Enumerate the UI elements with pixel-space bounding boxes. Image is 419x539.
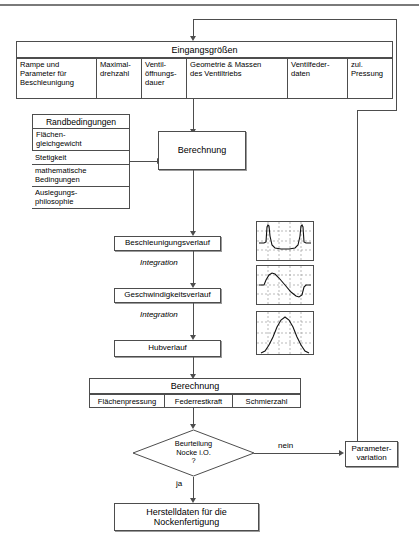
lift-to-calcbottom-line: [193, 357, 194, 375]
thumbnail-geschwindigkeitsverlauf: [256, 265, 314, 305]
thumbnail-beschleunigungsverlauf: [256, 221, 314, 261]
feedback-line-right-upper: [396, 19, 397, 111]
decision-no-line: [254, 453, 340, 454]
calc-bottom-header-label: Berechnung: [171, 381, 220, 391]
constraint-item-flaechengleichgewicht[interactable]: Flächen- gleichgewicht: [32, 129, 130, 151]
decision-no-label: nein: [278, 441, 293, 450]
decision-no-arrowhead: [339, 450, 344, 456]
inputs-columns: Rampe und Parameter für Beschleunigung M…: [16, 58, 393, 99]
decision-yes-line: [193, 477, 194, 499]
inputs-to-calc-line: [193, 99, 194, 130]
chain-box-beschleunigungsverlauf[interactable]: Beschleunigungsverlauf: [114, 236, 221, 251]
constraints-header: Randbedingungen: [32, 114, 130, 129]
feedback-line-top: [193, 19, 397, 20]
top-rule: [0, 4, 419, 6]
inputs-header-label: Eingangsgrößen: [171, 45, 237, 55]
chain-label-hubverlauf: Hubverlauf: [148, 344, 187, 353]
input-column-ventilfederdaten[interactable]: Ventilfeder- daten: [288, 58, 348, 99]
parameter-variation-box[interactable]: Parameter- variation: [345, 441, 398, 467]
chain-box-geschwindigkeitsverlauf[interactable]: Geschwindigkeitsverlauf: [114, 288, 221, 303]
feedback-line-into-inputs: [193, 19, 194, 37]
constraints-to-calc-line: [130, 161, 158, 162]
integration-label-2: Integration: [140, 310, 178, 319]
feedback-line-mid: [357, 110, 397, 111]
input-column-maximaldrehzahl[interactable]: Maximal- drehzahl: [97, 58, 142, 99]
feedback-line-right-lower: [357, 110, 358, 442]
calc-cell-federrestkraft[interactable]: Federrestkraft: [165, 394, 233, 408]
flowchart-diagram: Eingangsgrößen Rampe und Parameter für B…: [0, 0, 419, 539]
calc-cell-schmierzahl[interactable]: Schmierzahl: [233, 394, 301, 408]
chain-box-hubverlauf[interactable]: Hubverlauf: [114, 340, 221, 357]
input-column-ventiloeffnungsdauer[interactable]: Ventil- öffnungs- dauer: [142, 58, 187, 99]
constraint-item-mathematische-bedingungen[interactable]: mathematische Bedingungen: [32, 165, 130, 187]
calc-top-box[interactable]: Berechnung: [158, 131, 246, 170]
constraint-item-stetigkeit[interactable]: Stetigkeit: [32, 151, 130, 165]
calcbottom-to-decision-line: [193, 408, 194, 425]
chain-label-beschleunigungsverlauf: Beschleunigungsverlauf: [125, 239, 210, 248]
constraint-item-auslegungsphilosophie[interactable]: Auslegungs- philosophie: [32, 187, 130, 209]
calc-cell-flaechenpressung[interactable]: Flächenpressung: [89, 394, 165, 408]
calc-top-label: Berechnung: [178, 145, 227, 155]
calc-to-accel-line: [193, 170, 194, 232]
thumbnail-hubverlauf: [256, 311, 314, 355]
accel-to-vel-line: [193, 251, 194, 284]
integration-label-1: Integration: [140, 258, 178, 267]
chain-label-geschwindigkeitsverlauf: Geschwindigkeitsverlauf: [124, 291, 210, 300]
output-box[interactable]: Herstelldaten für die Nockenfertigung: [114, 503, 259, 531]
constraints-header-label: Randbedingungen: [46, 117, 116, 127]
input-column-geometrie-massen[interactable]: Geometrie & Massen des Ventiltriebs: [187, 58, 288, 99]
constraints-list: Flächen- gleichgewicht Stetigkeit mathem…: [32, 129, 130, 209]
decision-yes-label: ja: [176, 479, 182, 488]
vel-to-lift-line: [193, 303, 194, 336]
decision-diamond[interactable]: Beurteilung Nocke i.O. ?: [132, 429, 255, 477]
calc-bottom-cells: Flächenpressung Federrestkraft Schmierza…: [89, 394, 301, 408]
input-column-zul-pressung[interactable]: zul. Pressung: [348, 58, 393, 99]
calc-bottom-header: Berechnung: [89, 378, 301, 394]
input-column-rampe[interactable]: Rampe und Parameter für Beschleunigung: [16, 58, 97, 99]
decision-text: Beurteilung Nocke i.O. ?: [132, 429, 255, 477]
inputs-header: Eingangsgrößen: [16, 41, 393, 58]
